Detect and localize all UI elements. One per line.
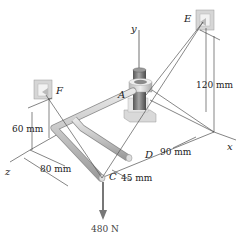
point-label-f: F — [55, 85, 64, 96]
axis-label-x: x — [227, 141, 233, 152]
point-label-a: A — [117, 89, 125, 100]
bracket-e — [196, 10, 220, 40]
dimension-lines — [24, 28, 214, 186]
cable-a-x — [152, 90, 214, 132]
dimension-90mm: 90 mm — [160, 147, 192, 157]
dimension-120mm: 120 mm — [196, 80, 234, 90]
statics-diagram: y x z E F A D C 120 mm 60 mm 80 mm 90 mm… — [0, 0, 241, 238]
rod-end-d — [126, 155, 132, 162]
point-label-d: D — [144, 149, 153, 160]
force-arrow — [99, 182, 107, 220]
dimension-45mm: 45 mm — [121, 173, 153, 183]
dimension-60mm: 60 mm — [12, 124, 44, 134]
bracket-f — [28, 80, 52, 108]
axis-label-y: y — [130, 23, 137, 34]
cable-ae — [146, 22, 203, 95]
axis-label-z: z — [4, 166, 11, 177]
point-label-c: C — [109, 171, 117, 182]
dimension-80mm: 80 mm — [40, 164, 72, 174]
diagram-canvas: y x z E F A D C 120 mm 60 mm 80 mm 90 mm… — [0, 0, 241, 238]
point-label-e: E — [183, 13, 192, 24]
load-label: 480 N — [91, 224, 119, 234]
